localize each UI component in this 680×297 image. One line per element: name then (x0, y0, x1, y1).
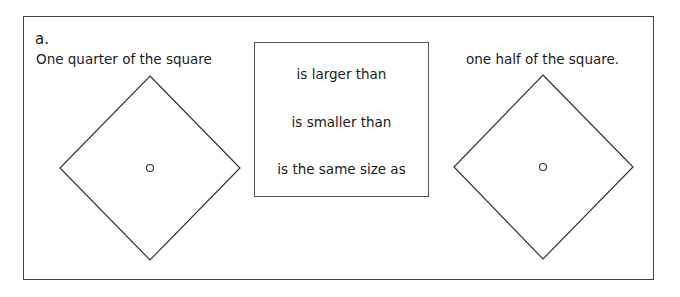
diagram-shapes (0, 0, 680, 297)
right-diamond-square (454, 75, 633, 259)
left-center-dot (147, 165, 154, 172)
right-center-dot (540, 164, 547, 171)
left-diamond-square (60, 76, 240, 260)
